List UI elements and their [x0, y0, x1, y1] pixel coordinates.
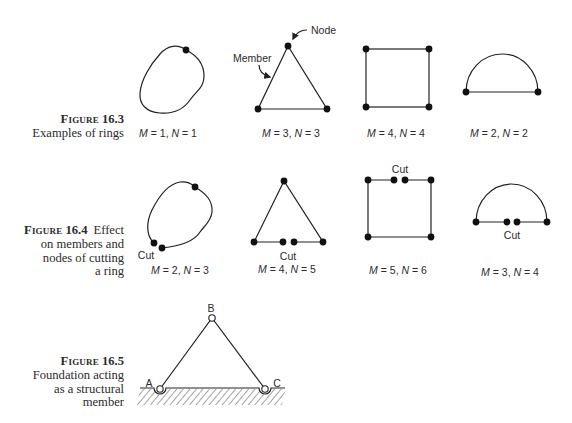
node-dot — [285, 43, 292, 50]
pin-node-a — [157, 386, 163, 392]
cut-node-dot — [291, 239, 298, 246]
semicircle-members — [476, 184, 547, 222]
cut-label: Cut — [280, 250, 296, 262]
node-dot — [255, 106, 262, 113]
pin-node-b — [209, 315, 215, 321]
ring-label: M = 2, N = 2 — [470, 127, 528, 139]
ring-label: M = 5, N = 6 — [369, 264, 427, 276]
member-curve — [140, 46, 204, 113]
ring-closed-curve: M = 1, N = 1 — [139, 46, 204, 139]
node-dot — [544, 219, 551, 226]
node-dot — [365, 177, 372, 184]
node-dot — [183, 47, 190, 54]
pin-node-c — [262, 386, 268, 392]
semicircle-members — [466, 54, 538, 92]
node-arrow-icon — [293, 30, 307, 39]
triangle-members — [254, 181, 323, 242]
node-dot — [281, 178, 288, 185]
ring-square: M = 4, N = 4 — [363, 46, 433, 139]
cut-node-dot — [391, 177, 398, 184]
ring-label: M = 3, N = 4 — [481, 266, 539, 278]
cut-node-dot — [504, 219, 511, 226]
node-dot — [473, 219, 480, 226]
ring-label: M = 1, N = 1 — [139, 127, 197, 139]
cut-label: Cut — [392, 163, 408, 175]
node-dot — [428, 177, 435, 184]
square-members — [366, 49, 429, 107]
cut-node-dot — [402, 177, 409, 184]
node-dot — [324, 106, 331, 113]
ring-label: M = 2, N = 3 — [151, 264, 209, 276]
node-dot — [363, 104, 370, 111]
figures-canvas: M = 1, N = 1 Node Member M = 3, N = 3 M … — [0, 0, 572, 423]
figure-16-5: A B C — [130, 302, 295, 410]
node-dot — [426, 104, 433, 111]
node-dot — [463, 89, 470, 96]
node-dot — [365, 234, 372, 241]
ring-triangle: Node Member M = 3, N = 3 — [233, 24, 336, 139]
node-label-a: A — [145, 377, 152, 389]
figure-16-4: Cut M = 2, N = 3 Cut M = 4, N = 5 Cut M … — [138, 163, 551, 278]
node-dot — [251, 239, 258, 246]
member-annotation: Member — [233, 52, 272, 64]
ring-cut-semicircle: Cut M = 3, N = 4 — [473, 184, 551, 278]
ring-label: M = 4, N = 5 — [258, 263, 316, 275]
node-annotation: Node — [311, 24, 336, 36]
ring-cut-square: Cut M = 5, N = 6 — [365, 163, 435, 276]
member-curve — [148, 182, 212, 248]
ring-label: M = 3, N = 3 — [262, 127, 320, 139]
node-label-c: C — [273, 377, 281, 389]
node-dot — [426, 46, 433, 53]
ground-hatching — [130, 385, 295, 410]
cut-node-dot — [514, 219, 521, 226]
cut-label: Cut — [504, 229, 520, 241]
cut-node-dot — [159, 245, 166, 252]
truss-members — [160, 318, 265, 389]
figure-16-3: M = 1, N = 1 Node Member M = 3, N = 3 M … — [139, 24, 541, 139]
node-label-b: B — [207, 302, 214, 314]
node-dot — [192, 184, 199, 191]
cut-label: Cut — [138, 249, 154, 261]
cut-node-dot — [151, 240, 158, 247]
node-dot — [428, 234, 435, 241]
ring-cut-triangle: Cut M = 4, N = 5 — [251, 178, 327, 275]
node-dot — [363, 46, 370, 53]
square-members — [368, 180, 431, 237]
ring-cut-closed-curve: Cut M = 2, N = 3 — [138, 182, 212, 276]
ring-semicircle: M = 2, N = 2 — [463, 54, 542, 139]
node-dot — [320, 239, 327, 246]
node-dot — [535, 89, 542, 96]
ring-label: M = 4, N = 4 — [367, 127, 425, 139]
member-arrow-icon — [259, 65, 270, 77]
cut-node-dot — [280, 239, 287, 246]
